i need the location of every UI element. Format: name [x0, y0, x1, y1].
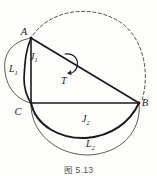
curve-label-l1: L1 [8, 63, 18, 76]
vertex-dot-b [138, 102, 141, 105]
arc-j1-icon [24, 38, 31, 103]
arc-dashed-icon [33, 11, 145, 100]
vertex-dot-a [30, 37, 33, 40]
vertex-label-b: B [142, 97, 149, 108]
figure-container: A B C L1 J1 T J2 L2 图 5.13 [0, 0, 157, 176]
vertex-dot-c [30, 102, 33, 105]
geometry-diagram: A B C L1 J1 T J2 L2 [0, 0, 157, 176]
vertex-label-a: A [20, 26, 28, 37]
rotation-arrow-icon [65, 54, 77, 73]
segment-ab-line [31, 38, 139, 103]
curve-label-t: T [61, 75, 68, 86]
curve-label-l1-sub: 1 [15, 69, 18, 76]
curve-label-j1-sub: 1 [34, 56, 37, 63]
vertex-label-c: C [14, 106, 22, 117]
figure-caption: 图 5.13 [0, 164, 157, 176]
curve-label-t-base: T [61, 75, 68, 86]
curve-label-j2-sub: 2 [86, 119, 90, 126]
curve-label-j2: J2 [82, 113, 90, 126]
curve-label-j1: J1 [30, 51, 38, 63]
curve-label-l2: L2 [85, 138, 96, 151]
curve-label-l2-sub: 2 [92, 144, 96, 151]
